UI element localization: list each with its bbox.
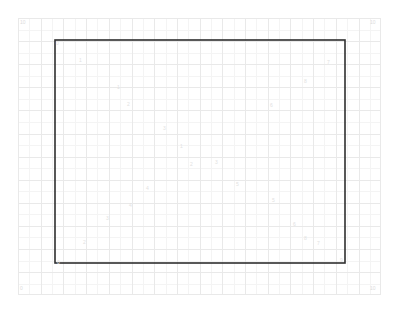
faint-data-label: 3 — [163, 126, 166, 131]
faint-data-label: 6 — [293, 222, 296, 227]
faint-data-label: 3 — [215, 160, 218, 165]
faint-data-label: 3 — [106, 216, 109, 221]
faint-data-label: 1 — [117, 85, 120, 90]
faint-data-label: 4 — [146, 186, 149, 191]
faint-data-label: 4 — [129, 203, 132, 208]
faint-data-label: 2 — [83, 240, 86, 245]
faint-data-label: 5 — [236, 182, 239, 187]
faint-data-label: 5 — [272, 198, 275, 203]
faint-data-label: 8 — [304, 79, 307, 84]
faint-data-label: 2 — [127, 102, 130, 107]
corner-label-top-left: 10 — [20, 20, 26, 25]
faint-data-label: 9 — [340, 258, 343, 263]
faint-data-label: 8 — [304, 236, 307, 241]
faint-data-label: 0 — [56, 41, 59, 46]
corner-label-top-right: 10 — [370, 20, 376, 25]
faint-data-label: 0 — [57, 260, 60, 265]
corner-label-bottom-right: 10 — [370, 286, 376, 291]
faint-data-label: 7 — [327, 60, 330, 65]
corner-label-bottom-left: 0 — [20, 286, 23, 291]
faint-data-label: 1 — [79, 58, 82, 63]
faint-data-label: 7 — [317, 241, 320, 246]
faint-data-label: 2 — [190, 162, 193, 167]
faint-data-label: 1 — [180, 144, 183, 149]
plot-root: 0187126313254543627809 1010010 — [0, 0, 399, 313]
faint-data-label: 6 — [270, 103, 273, 108]
